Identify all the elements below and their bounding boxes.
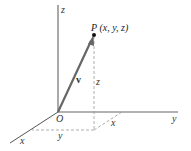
x-axis-label: x	[20, 136, 24, 146]
point-p	[92, 33, 96, 37]
vector-v	[58, 41, 91, 112]
vector-v-label: v	[76, 75, 81, 85]
x-component-dashed	[94, 112, 122, 130]
z-component-label: z	[96, 77, 100, 87]
y-axis-label: y	[172, 114, 176, 124]
origin-label: O	[56, 114, 63, 124]
z-axis-label: z	[61, 5, 65, 15]
x-axis	[10, 112, 58, 143]
vector-position-diagram: z y x O P (x, y, z) v z x y	[0, 0, 191, 151]
x-component-label: x	[111, 118, 115, 128]
y-component-label: y	[58, 131, 62, 141]
point-p-label: P (x, y, z)	[91, 23, 128, 33]
